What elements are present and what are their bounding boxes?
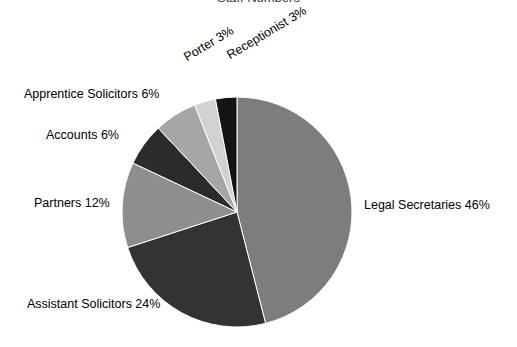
- pie-chart-figure: Staff Numbers Legal Secretaries 46% Assi…: [0, 0, 517, 347]
- slice-label-partners: Partners 12%: [34, 196, 110, 211]
- pie-slice-group: [122, 97, 352, 327]
- slice-label-accounts: Accounts 6%: [46, 128, 119, 143]
- slice-label-apprentice-solicitors: Apprentice Solicitors 6%: [24, 87, 159, 102]
- pie-chart-canvas: [0, 0, 517, 347]
- slice-label-assistant-solicitors: Assistant Solicitors 24%: [27, 297, 160, 312]
- slice-label-legal-secretaries: Legal Secretaries 46%: [364, 198, 490, 213]
